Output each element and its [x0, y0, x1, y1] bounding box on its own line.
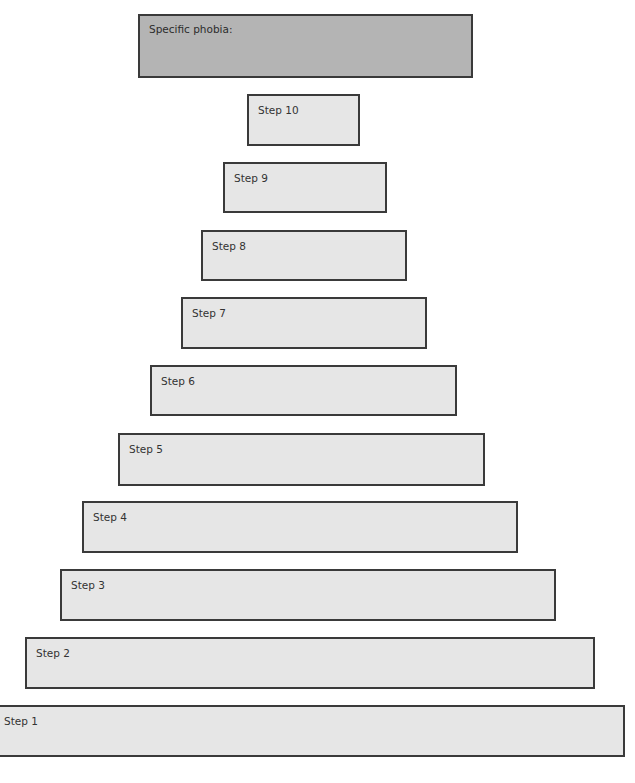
- step-10-label: Step 10: [258, 104, 299, 116]
- step-2-box[interactable]: Step 2: [25, 637, 595, 689]
- step-8-label: Step 8: [212, 240, 246, 252]
- step-1-label: Step 1: [4, 715, 38, 727]
- step-7-label: Step 7: [192, 307, 226, 319]
- step-5-label: Step 5: [129, 443, 163, 455]
- step-3-box[interactable]: Step 3: [60, 569, 556, 621]
- step-6-label: Step 6: [161, 375, 195, 387]
- step-2-label: Step 2: [36, 647, 70, 659]
- step-8-box[interactable]: Step 8: [201, 230, 407, 281]
- step-10-box[interactable]: Step 10: [247, 94, 360, 146]
- specific-phobia-field[interactable]: Specific phobia:: [138, 14, 473, 78]
- step-1-box[interactable]: Step 1: [0, 705, 625, 757]
- step-9-label: Step 9: [234, 172, 268, 184]
- step-3-label: Step 3: [71, 579, 105, 591]
- step-4-box[interactable]: Step 4: [82, 501, 518, 553]
- step-5-box[interactable]: Step 5: [118, 433, 485, 486]
- step-9-box[interactable]: Step 9: [223, 162, 387, 213]
- step-7-box[interactable]: Step 7: [181, 297, 427, 349]
- step-4-label: Step 4: [93, 511, 127, 523]
- specific-phobia-label: Specific phobia:: [149, 23, 233, 35]
- step-6-box[interactable]: Step 6: [150, 365, 457, 416]
